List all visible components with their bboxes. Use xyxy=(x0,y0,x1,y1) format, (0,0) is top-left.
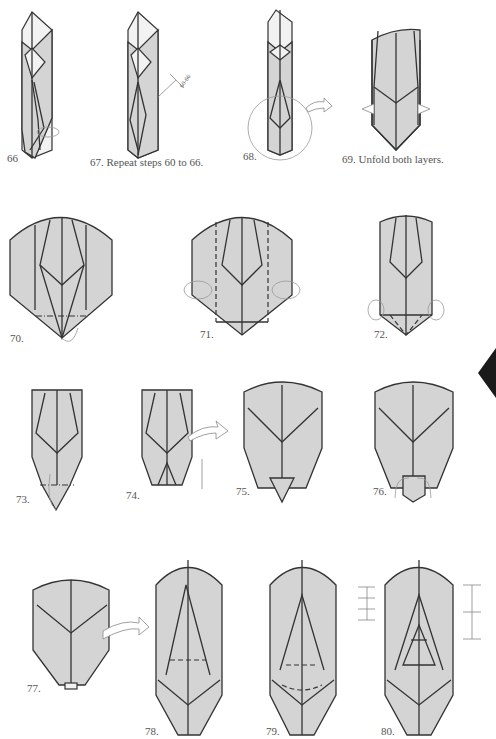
step-72: 72. xyxy=(368,210,458,350)
step-70-label: 70. xyxy=(10,332,24,344)
step-73: 73. xyxy=(0,385,100,515)
step-74-label: 74. xyxy=(126,489,140,501)
page-edge-tab xyxy=(478,348,496,398)
step-80-diagram xyxy=(355,555,494,739)
step-71-label: 71. xyxy=(200,328,214,340)
step-71-diagram xyxy=(180,210,300,350)
step-79-label: 79. xyxy=(266,725,280,737)
step-73-diagram xyxy=(0,385,100,515)
step-68-diagram xyxy=(240,0,340,170)
step-75: 75. xyxy=(230,380,340,510)
step-67-label: 67. Repeat steps 60 to 66. xyxy=(90,156,203,168)
step-78-diagram xyxy=(140,555,250,739)
step-69: 69. Unfold both layers. xyxy=(350,25,494,175)
step-66: 66 xyxy=(0,0,80,170)
step-68: 68. xyxy=(240,0,340,175)
step-79: 79. xyxy=(260,555,360,739)
step-78: 78. xyxy=(140,555,250,739)
step-80-label: 80. xyxy=(381,725,395,737)
step-66-diagram xyxy=(0,0,80,170)
step-68-label: 68. xyxy=(243,150,257,162)
step-76-label: 76. xyxy=(373,485,387,497)
step-77: 77. xyxy=(25,575,145,705)
step-66-label: 66 xyxy=(7,152,18,164)
step-76: 76. xyxy=(365,380,475,510)
step-77-diagram xyxy=(25,575,145,705)
step-70: 70. xyxy=(0,210,120,350)
step-67-diagram xyxy=(90,0,240,170)
step-67: 60-66 67. Repeat steps 60 to 66. xyxy=(90,0,240,175)
step-73-label: 73. xyxy=(16,493,30,505)
step-70-diagram xyxy=(0,210,120,350)
step-74: 74. xyxy=(120,385,230,515)
step-80: 80. xyxy=(355,555,494,739)
step-79-diagram xyxy=(260,555,360,739)
step-69-label: 69. Unfold both layers. xyxy=(342,153,444,165)
step-75-label: 75. xyxy=(236,485,250,497)
step-72-label: 72. xyxy=(374,328,388,340)
step-69-diagram xyxy=(350,25,494,155)
step-77-label: 77. xyxy=(27,682,41,694)
step-78-label: 78. xyxy=(145,725,159,737)
step-71: 71. xyxy=(180,210,300,350)
